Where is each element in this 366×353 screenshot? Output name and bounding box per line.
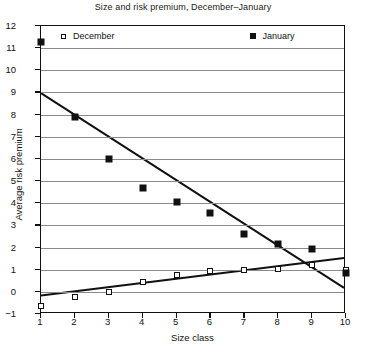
y-axis-tick-label: 4 [0,197,16,208]
data-point-january [241,231,248,238]
gridline [41,181,344,182]
y-axis-tick-label: 1 [0,263,16,274]
legend-item-december: December [61,31,115,41]
y-axis-tick-mark [35,47,40,48]
open-square-marker-icon [61,34,66,39]
gridline [41,203,344,204]
x-axis-tick-label: 4 [130,316,154,327]
legend-label-december: December [73,31,115,41]
gridline [41,115,344,116]
gridline [41,248,344,249]
y-axis-tick-mark [35,25,40,26]
y-axis-tick-label: 0 [0,285,16,296]
y-axis-tick-mark [35,247,40,248]
x-axis-label: Size class [40,332,345,343]
data-point-december [174,272,180,278]
y-axis-tick-mark [35,91,40,92]
data-point-december [38,303,44,309]
plot-area [40,25,345,313]
y-axis-tick-label: 5 [0,175,16,186]
y-axis-tick-label: 6 [0,152,16,163]
y-axis-tick-label: 9 [0,86,16,97]
data-point-december [140,279,146,285]
y-axis-tick-mark [35,69,40,70]
gridline [41,92,344,93]
data-point-december [106,289,112,295]
data-point-december [241,267,247,273]
gridline [41,48,344,49]
x-axis-tick-label: 1 [28,316,52,327]
trendline-december [41,258,344,295]
y-axis-tick-mark [35,180,40,181]
x-axis-tick-label: 10 [333,316,357,327]
y-axis-tick-label: 11 [0,42,16,53]
y-axis-tick-mark [35,136,40,137]
x-axis-tick-label: 5 [164,316,188,327]
y-axis-tick-mark [35,269,40,270]
y-axis-tick-mark [35,202,40,203]
x-axis-tick-label: 7 [231,316,255,327]
chart-legend: December January [41,26,344,46]
legend-label-january: January [263,31,295,41]
y-axis-tick-label: 10 [0,64,16,75]
data-point-january [105,155,112,162]
gridline [41,159,344,160]
x-axis-tick-label: 2 [62,316,86,327]
data-point-january [309,245,316,252]
data-point-december [72,294,78,300]
trendline-january [41,93,344,288]
y-axis-tick-label: 8 [0,108,16,119]
chart-figure: Size and risk premium, December–January … [0,0,366,353]
chart-title: Size and risk premium, December–January [0,2,366,12]
data-point-january [139,184,146,191]
data-point-january [343,270,350,277]
gridline [41,70,344,71]
y-axis-tick-mark [35,224,40,225]
y-axis-tick-mark [35,291,40,292]
legend-item-january: January [250,31,295,41]
x-axis-tick-label: 3 [96,316,120,327]
data-point-january [275,241,282,248]
y-axis-tick-label: 7 [0,130,16,141]
y-axis-tick-mark [35,114,40,115]
filled-square-marker-icon [250,33,256,39]
y-axis-tick-label: 2 [0,241,16,252]
gridline [41,137,344,138]
y-axis-tick-label: 12 [0,20,16,31]
x-axis-tick-label: 8 [265,316,289,327]
y-axis-tick-mark [35,158,40,159]
gridline [41,225,344,226]
data-point-january [71,113,78,120]
x-axis-tick-label: 9 [299,316,323,327]
gridline [41,292,344,293]
x-axis-tick-label: 6 [197,316,221,327]
data-point-december [207,268,213,274]
data-point-december [275,266,281,272]
y-axis-tick-label: 3 [0,219,16,230]
gridline [41,270,344,271]
y-axis-tick-label: −1 [0,308,16,319]
data-point-january [173,199,180,206]
data-point-january [207,210,214,217]
data-point-december [309,262,315,268]
